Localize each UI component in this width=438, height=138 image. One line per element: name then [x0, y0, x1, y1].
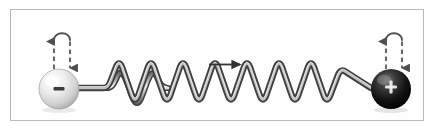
minus-sign-icon: [54, 87, 65, 90]
right-arrow-uturn: [386, 33, 402, 40]
oscillation-arrow-left: [54, 33, 70, 69]
positive-charge-sphere: [371, 69, 411, 113]
figure-canvas: [0, 0, 438, 138]
oscillation-arrow-right: [386, 33, 402, 69]
negative-charge-sphere: [39, 69, 79, 113]
right-sphere-specular: [377, 75, 391, 85]
physics-figure: Oscillating dipole: two opposite charges…: [0, 0, 438, 138]
coil-spring: [78, 62, 371, 103]
left-sphere-specular: [45, 76, 60, 87]
left-arrow-uturn: [54, 33, 70, 40]
